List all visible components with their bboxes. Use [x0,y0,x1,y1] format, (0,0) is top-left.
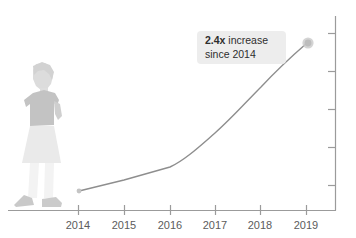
callout-line-2: since 2014 [205,48,256,60]
silhouette-leg-right [44,163,54,198]
silhouette-shirt [24,90,59,126]
increase-callout: 2.4x increase since 2014 [197,31,286,64]
callout-rest-text: increase [225,34,268,46]
silhouette-leg-left [28,163,39,198]
y-axis-ticks [328,34,336,186]
line-chart: 2014 2015 2016 2017 2018 2019 2.4x incre… [0,0,356,238]
x-tick-label-2017: 2017 [203,219,227,231]
chart-canvas: 2014 2015 2016 2017 2018 2019 2.4x incre… [0,0,356,238]
x-tick-label-2018: 2018 [248,219,272,231]
silhouette-skirt [22,126,61,163]
silhouette-arm [54,101,62,120]
x-tick-label-2019: 2019 [294,219,318,231]
x-tick-label-2014: 2014 [66,219,90,231]
silhouette-shoe-front [42,197,62,207]
x-axis-tick-labels: 2014 2015 2016 2017 2018 2019 [66,219,318,231]
x-tick-label-2016: 2016 [158,219,182,231]
trend-line [79,43,307,191]
x-tick-label-2015: 2015 [112,219,136,231]
callout-strong-text: 2.4x [205,34,226,46]
callout-line-1: 2.4x increase [205,34,268,46]
data-point-2019 [305,40,312,47]
person-silhouette-art [14,62,62,207]
data-point-2014 [77,189,82,194]
